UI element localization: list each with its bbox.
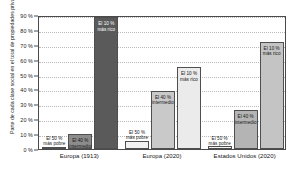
bar-value-label: El 40 %intermedio bbox=[69, 138, 91, 149]
y-tick-label: 20 % bbox=[20, 117, 33, 123]
y-tick-label: 50 % bbox=[20, 73, 33, 79]
bar-label-line-2: más pobre bbox=[43, 141, 65, 146]
bar-value-label: El 10 %más rico bbox=[263, 46, 281, 57]
y-tick-label: 80 % bbox=[20, 28, 33, 34]
y-axis-ticks: 0 %10 %20 %30 %40 %50 %60 %70 %80 %90 % bbox=[0, 16, 38, 150]
bar-value-label: El 40 %intermedio bbox=[235, 114, 257, 125]
x-axis-category-label: Europa (2020) bbox=[142, 153, 181, 159]
bar[interactable]: El 10 %más rico bbox=[94, 17, 118, 149]
bar-group: El 50 %más pobreEl 40 %intermedioEl 10 %… bbox=[122, 17, 205, 149]
x-axis-category-label: Europa (1913) bbox=[60, 153, 99, 159]
bar-chart: Parte de cada clase social en el total d… bbox=[0, 0, 294, 175]
bar[interactable]: El 10 %más rico bbox=[260, 42, 284, 149]
bar-value-label: El 50 %más pobre bbox=[43, 136, 65, 147]
bar-label-line-2: más rico bbox=[263, 51, 281, 56]
y-tick-label: 10 % bbox=[20, 132, 33, 138]
x-axis-category-label: Estados Unidos (2020) bbox=[214, 153, 276, 159]
bar-label-line-2: intermedio bbox=[235, 120, 257, 125]
plot-area: El 50 %más pobreEl 40 %intermedioEl 10 %… bbox=[38, 16, 286, 150]
y-tick-label: 90 % bbox=[20, 13, 33, 19]
bar[interactable]: El 40 %intermedio bbox=[151, 91, 175, 149]
y-tick-label: 0 % bbox=[23, 147, 33, 153]
bar-value-label: El 10 %más rico bbox=[97, 21, 115, 32]
bar-label-line-2: más pobre bbox=[126, 135, 148, 140]
bar[interactable]: El 50 %más pobre bbox=[208, 146, 232, 149]
bar[interactable]: El 10 %más rico bbox=[177, 67, 201, 149]
x-axis-labels: Europa (1913)Europa (2020)Estados Unidos… bbox=[38, 153, 286, 171]
y-tick-label: 40 % bbox=[20, 87, 33, 93]
bar[interactable]: El 40 %intermedio bbox=[68, 134, 92, 149]
bar-label-line-2: más pobre bbox=[209, 141, 231, 146]
y-tick-label: 60 % bbox=[20, 58, 33, 64]
bar-label-line-2: intermedio bbox=[69, 144, 91, 149]
bar[interactable]: El 40 %intermedio bbox=[234, 110, 258, 149]
y-tick-label: 70 % bbox=[20, 43, 33, 49]
bar[interactable]: El 50 %más pobre bbox=[42, 147, 66, 149]
bar-value-label: El 50 %más pobre bbox=[126, 130, 148, 141]
bar[interactable]: El 50 %más pobre bbox=[125, 141, 149, 149]
bar-label-line-2: más rico bbox=[180, 77, 198, 82]
y-tick-label: 30 % bbox=[20, 102, 33, 108]
bar-groups: El 50 %más pobreEl 40 %intermedioEl 10 %… bbox=[39, 17, 285, 149]
bar-group: El 50 %más pobreEl 40 %intermedioEl 10 %… bbox=[39, 17, 122, 149]
bar-group: El 50 %más pobreEl 40 %intermedioEl 10 %… bbox=[204, 17, 287, 149]
bar-value-label: El 10 %más rico bbox=[180, 71, 198, 82]
bar-value-label: El 50 %más pobre bbox=[209, 136, 231, 147]
bar-value-label: El 40 %intermedio bbox=[152, 95, 174, 106]
bar-label-line-2: intermedio bbox=[152, 100, 174, 105]
bar-label-line-2: más rico bbox=[97, 27, 115, 32]
